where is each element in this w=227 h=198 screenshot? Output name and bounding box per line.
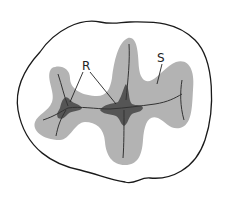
label-r: R (82, 59, 90, 73)
tooth-occlusal-diagram: R S (0, 0, 227, 198)
label-s: S (157, 51, 165, 65)
